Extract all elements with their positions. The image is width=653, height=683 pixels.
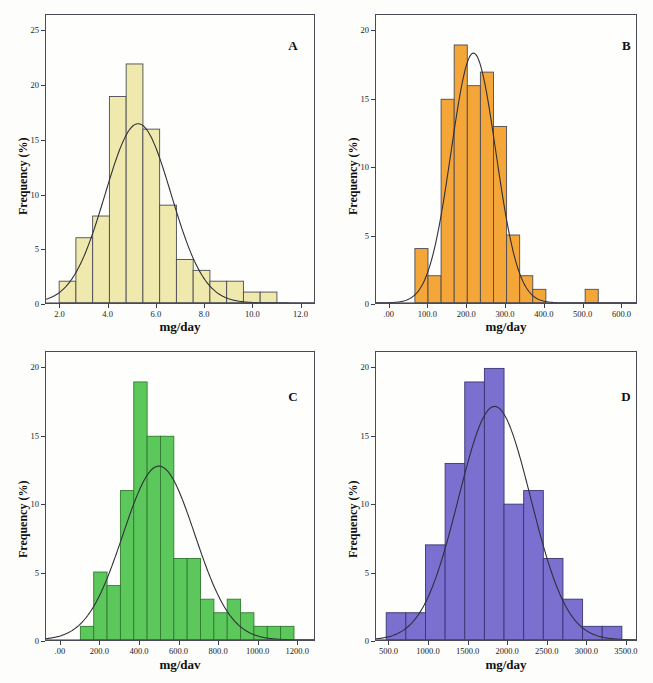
plot-area-c (45, 351, 315, 641)
x-tick-mark (427, 304, 428, 308)
x-tick-label: 2.0 (54, 309, 65, 319)
x-tick-mark (59, 304, 60, 308)
y-tick-label: 0 (345, 636, 369, 646)
x-tick-label: 200.0 (90, 646, 109, 656)
y-tick-mark (41, 249, 45, 250)
y-tick-mark (371, 236, 375, 237)
x-tick-mark (99, 641, 100, 645)
x-tick-label: 600.0 (169, 646, 188, 656)
x-tick-label: 100.0 (418, 309, 437, 319)
x-tick-label: 800.0 (209, 646, 228, 656)
y-tick-mark (41, 304, 45, 305)
x-tick-label: 400.0 (534, 309, 553, 319)
panel-d: D Frequency (%) mg/day 05101520500.01000… (330, 345, 653, 683)
x-tick-mark (586, 641, 587, 645)
x-tick-mark (389, 304, 390, 308)
x-tick-label: 2000.0 (495, 646, 518, 656)
x-tick-mark (468, 641, 469, 645)
y-tick-label: 10 (345, 162, 369, 172)
y-tick-mark (371, 304, 375, 305)
x-tick-label: 4.0 (102, 309, 113, 319)
y-tick-mark (371, 436, 375, 437)
y-tick-mark (41, 140, 45, 141)
panel-c: C Frequency (%) mg/dav 05101520.00200.04… (0, 345, 330, 683)
y-tick-mark (371, 167, 375, 168)
x-tick-label: 2500.0 (535, 646, 558, 656)
x-tick-label: 8.0 (199, 309, 210, 319)
y-tick-label: 20 (345, 362, 369, 372)
x-tick-mark (252, 304, 253, 308)
y-tick-mark (371, 30, 375, 31)
y-tick-mark (41, 641, 45, 642)
x-tick-mark (583, 304, 584, 308)
y-tick-label: 10 (15, 190, 39, 200)
panel-b: B Frequency (%) mg/day 05101520.00100.02… (330, 0, 653, 345)
y-tick-mark (41, 436, 45, 437)
x-tick-mark (621, 304, 622, 308)
y-tick-label: 20 (15, 80, 39, 90)
x-tick-mark (60, 641, 61, 645)
x-tick-label: 200.0 (457, 309, 476, 319)
y-tick-label: 15 (345, 94, 369, 104)
x-tick-mark (626, 641, 627, 645)
y-axis-title-c: Frequency (%) (16, 481, 31, 558)
y-tick-label: 25 (15, 25, 39, 35)
x-axis-title-c: mg/dav (45, 657, 315, 673)
y-tick-label: 5 (15, 244, 39, 254)
y-tick-label: 15 (15, 431, 39, 441)
y-tick-mark (41, 504, 45, 505)
plot-area-d (375, 351, 637, 641)
x-tick-label: .00 (383, 309, 394, 319)
y-axis-title-d: Frequency (%) (346, 481, 361, 558)
y-tick-label: 20 (345, 25, 369, 35)
x-tick-label: 500.0 (573, 309, 592, 319)
x-tick-mark (505, 304, 506, 308)
x-tick-mark (297, 641, 298, 645)
x-tick-label: 1500.0 (456, 646, 479, 656)
histogram-figure: A Frequency (%) mg/day 05101520252.04.06… (0, 0, 653, 683)
x-tick-label: 1000.0 (416, 646, 439, 656)
y-tick-mark (371, 504, 375, 505)
x-tick-mark (301, 304, 302, 308)
y-tick-label: 0 (15, 636, 39, 646)
y-axis-title-b: Frequency (%) (346, 138, 361, 215)
panel-letter-b: B (622, 38, 631, 54)
x-tick-label: 3000.0 (575, 646, 598, 656)
y-tick-mark (41, 195, 45, 196)
x-tick-mark (139, 641, 140, 645)
x-axis-title-b: mg/day (375, 319, 637, 335)
y-tick-label: 20 (15, 362, 39, 372)
y-tick-mark (371, 641, 375, 642)
x-tick-label: 1200.0 (286, 646, 309, 656)
y-tick-mark (371, 99, 375, 100)
panel-letter-a: A (288, 38, 298, 54)
x-tick-mark (108, 304, 109, 308)
x-tick-label: 10.0 (245, 309, 260, 319)
y-axis-title-a: Frequency (%) (16, 138, 31, 215)
x-tick-mark (428, 641, 429, 645)
panel-a: A Frequency (%) mg/day 05101520252.04.06… (0, 0, 330, 345)
x-tick-mark (204, 304, 205, 308)
y-tick-label: 15 (345, 431, 369, 441)
x-tick-label: 1000.0 (246, 646, 269, 656)
x-tick-label: 6.0 (151, 309, 162, 319)
y-tick-label: 10 (345, 499, 369, 509)
plot-area-a (45, 14, 315, 304)
plot-svg-b (376, 15, 636, 303)
x-tick-mark (466, 304, 467, 308)
y-tick-label: 0 (15, 299, 39, 309)
x-tick-label: 300.0 (495, 309, 514, 319)
x-tick-label: 500.0 (379, 646, 398, 656)
y-tick-label: 10 (15, 499, 39, 509)
x-tick-mark (507, 641, 508, 645)
y-tick-mark (41, 367, 45, 368)
plot-svg-a (46, 15, 314, 303)
x-tick-mark (179, 641, 180, 645)
plot-svg-c (46, 352, 314, 640)
y-tick-label: 15 (15, 135, 39, 145)
y-tick-label: 5 (345, 231, 369, 241)
x-axis-title-a: mg/day (45, 319, 315, 335)
x-tick-label: 600.0 (612, 309, 631, 319)
x-tick-label: .00 (55, 646, 66, 656)
panel-letter-c: C (288, 389, 298, 405)
